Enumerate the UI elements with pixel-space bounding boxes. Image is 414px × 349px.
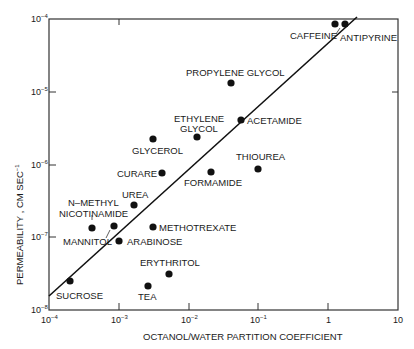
label-thiourea: THIOUREA <box>236 151 286 162</box>
point-sucrose <box>66 277 73 284</box>
svg-text:10−2: 10−2 <box>181 314 199 325</box>
point-mannitol <box>88 224 95 231</box>
x-axis-label: OCTANOL/WATER PARTITION COEFFICIENT <box>143 331 343 342</box>
svg-text:10−1: 10−1 <box>250 314 268 325</box>
label-caffeine: CAFFEINE <box>290 30 337 41</box>
point-erythritol <box>165 270 172 277</box>
point-glycerol <box>149 135 156 142</box>
regression-line <box>49 17 357 296</box>
y-axis-label: PERMEABILITY , CM SEC−1 <box>14 164 25 285</box>
point-formamide <box>207 168 214 175</box>
svg-text:10−8: 10−8 <box>31 304 49 315</box>
data-points <box>66 20 348 289</box>
label-acetamide: ACETAMIDE <box>247 115 302 126</box>
x-tick-labels: 10−4 10−3 10−2 10−1 1 10 <box>41 314 403 325</box>
y-tick-labels: 10−4 10−5 10−6 10−7 10−8 <box>31 13 49 315</box>
label-nicotinamide: NICOTINAMIDE <box>59 208 128 219</box>
point-labels: SUCROSE TEA ERYTHRITOL MANNITOL N–METHYL… <box>56 30 397 302</box>
point-acetamide <box>237 116 244 123</box>
point-n-methyl-nicotinamide <box>110 222 117 229</box>
label-methotrexate: METHOTREXATE <box>159 222 236 233</box>
plot-frame <box>49 19 398 310</box>
label-urea: UREA <box>122 189 149 200</box>
label-erythritol: ERYTHRITOL <box>140 257 200 268</box>
svg-text:10−4: 10−4 <box>41 314 59 325</box>
label-antipyrine: ANTIPYRINE <box>340 32 397 43</box>
label-curare: CURARE <box>117 168 157 179</box>
svg-text:10−4: 10−4 <box>31 13 49 24</box>
point-arabinose <box>115 237 122 244</box>
point-methotrexate <box>149 223 156 230</box>
svg-text:10: 10 <box>393 315 403 325</box>
label-propylene-glycol: PROPYLENE GLYCOL <box>186 67 285 78</box>
point-ethylene-glycol <box>193 133 200 140</box>
scatter-chart: 10−4 10−3 10−2 10−1 1 10 10−4 10−5 10−6 … <box>0 0 414 349</box>
label-arabinose: ARABINOSE <box>127 236 182 247</box>
point-thiourea <box>254 165 261 172</box>
svg-text:10−7: 10−7 <box>31 231 49 242</box>
label-tea: TEA <box>138 291 157 302</box>
label-formamide: FORMAMIDE <box>184 177 242 188</box>
point-curare <box>158 169 165 176</box>
label-glycol: GLYCOL <box>180 123 218 134</box>
label-mannitol: MANNITOL <box>63 236 112 247</box>
label-sucrose: SUCROSE <box>56 290 103 301</box>
point-urea <box>130 201 137 208</box>
point-antipyrine <box>341 20 348 27</box>
svg-text:10−3: 10−3 <box>111 314 129 325</box>
svg-text:1: 1 <box>326 315 331 325</box>
point-caffeine <box>331 20 338 27</box>
svg-text:10−6: 10−6 <box>31 159 49 170</box>
point-tea <box>144 282 151 289</box>
point-propylene-glycol <box>227 79 234 86</box>
label-glycerol: GLYCEROL <box>132 145 183 156</box>
label-n-methyl: N–METHYL <box>68 197 119 208</box>
svg-text:10−5: 10−5 <box>31 86 49 97</box>
